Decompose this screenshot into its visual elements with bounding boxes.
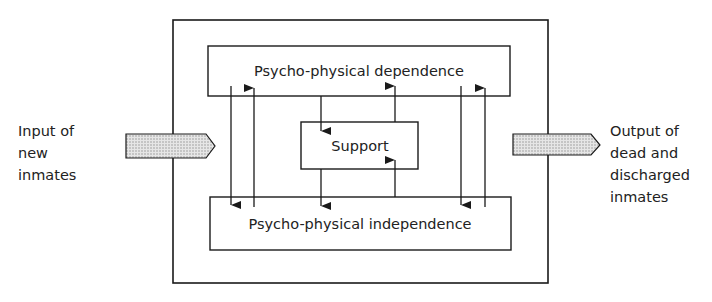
output-label-line: inmates <box>610 186 690 208</box>
input-arrow-icon <box>126 134 215 158</box>
output-label-line: Output of <box>610 120 690 142</box>
output-label-line: dead and <box>610 142 690 164</box>
output-arrow-icon <box>513 134 600 155</box>
independence-label: Psycho-physical independence <box>248 216 471 232</box>
output-label-line: discharged <box>610 164 690 186</box>
diagram-canvas: Psycho-physical dependence Support Psych… <box>0 0 712 302</box>
output-label: Output of dead and discharged inmates <box>610 120 690 208</box>
input-label-line: new <box>18 142 76 164</box>
support-label: Support <box>331 138 389 154</box>
input-label-line: inmates <box>18 164 76 186</box>
dependence-label: Psycho-physical dependence <box>254 63 464 79</box>
input-label-line: Input of <box>18 120 76 142</box>
input-label: Input of new inmates <box>18 120 76 186</box>
